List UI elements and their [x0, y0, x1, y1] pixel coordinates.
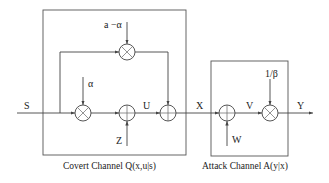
label-z: Z	[116, 135, 122, 146]
label-alpha: α	[88, 78, 94, 89]
label-u: U	[143, 100, 151, 111]
label-x: X	[196, 100, 204, 111]
adder-u-icon	[160, 105, 176, 121]
attack-channel-label: Attack Channel A(y|x)	[202, 161, 288, 172]
label-w: W	[232, 134, 242, 145]
adder-z-icon	[119, 105, 135, 121]
multiplier-alpha-icon	[75, 105, 91, 121]
adder-w-icon	[219, 105, 235, 121]
label-a-minus-alpha: a −α	[104, 19, 123, 30]
label-s: S	[24, 100, 30, 111]
label-v: V	[246, 100, 254, 111]
block-diagram: S a −α α Z U X W V 1/β Y Covert Channel …	[0, 0, 329, 183]
multiplier-a-minus-alpha-icon	[119, 44, 135, 60]
covert-channel-box	[43, 10, 186, 155]
covert-channel-label: Covert Channel Q(x,u|s)	[63, 161, 156, 172]
label-y: Y	[297, 100, 304, 111]
multiplier-inv-beta-icon	[262, 105, 278, 121]
label-inv-beta: 1/β	[265, 68, 278, 79]
